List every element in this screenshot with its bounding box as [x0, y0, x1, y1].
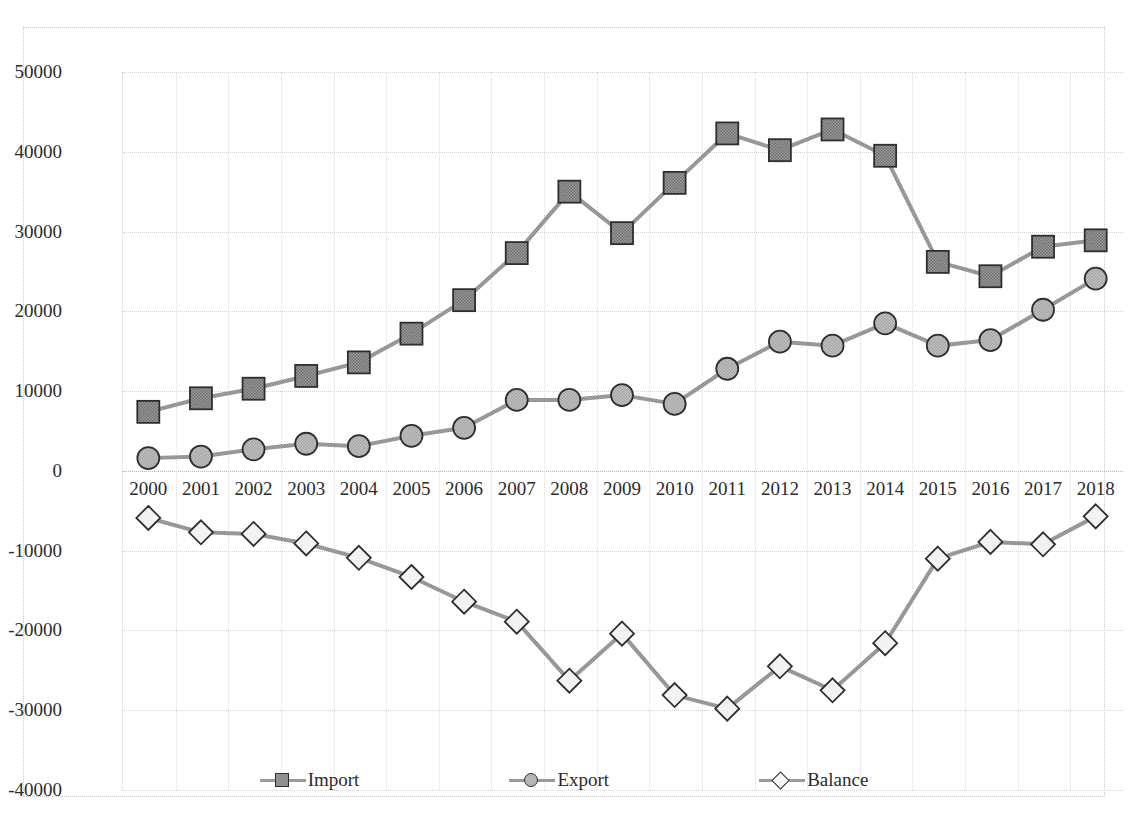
- data-point-diamond: [347, 546, 371, 570]
- data-point-square: [243, 378, 265, 400]
- data-point-circle: [979, 329, 1001, 351]
- x-axis-tick-label: 2003: [277, 479, 335, 498]
- data-point-circle: [295, 433, 317, 455]
- x-axis-tick-label: 2014: [856, 479, 914, 498]
- x-axis-tick-label: 2011: [698, 479, 756, 498]
- data-point-square: [400, 323, 422, 345]
- x-axis-tick-label: 2007: [488, 479, 546, 498]
- data-point-square: [664, 172, 686, 194]
- legend-label: Import: [308, 770, 360, 789]
- data-point-square: [348, 351, 370, 373]
- y-axis-tick-label: -30000: [0, 700, 62, 719]
- series-balance: [136, 504, 1107, 720]
- legend-item-balance[interactable]: Balance: [759, 770, 868, 789]
- data-point-circle: [716, 358, 738, 380]
- data-point-diamond: [926, 547, 950, 571]
- data-point-circle: [243, 438, 265, 460]
- data-point-circle: [874, 312, 896, 334]
- y-axis-tick-label: -10000: [0, 541, 62, 560]
- y-axis-tick-label: 50000: [0, 62, 62, 81]
- square-marker-icon: [260, 771, 306, 789]
- data-point-square: [1085, 229, 1107, 251]
- data-point-circle: [453, 417, 475, 439]
- data-point-diamond: [1084, 504, 1108, 528]
- data-point-circle: [664, 393, 686, 415]
- data-point-square: [190, 387, 212, 409]
- data-point-diamond: [399, 565, 423, 589]
- x-axis-tick-label: 2002: [225, 479, 283, 498]
- legend-label: Export: [557, 770, 609, 789]
- x-axis-tick-label: 2018: [1067, 479, 1125, 498]
- chart-frame: 50000400003000020000100000-10000-20000-3…: [23, 27, 1105, 797]
- x-axis-tick-label: 2005: [382, 479, 440, 498]
- x-axis-tick-label: 2016: [961, 479, 1019, 498]
- data-point-diamond: [294, 531, 318, 555]
- data-point-circle: [1032, 299, 1054, 321]
- circle-marker-icon: [509, 771, 555, 789]
- data-point-square: [716, 122, 738, 144]
- data-point-square: [979, 265, 1001, 287]
- data-point-circle: [348, 435, 370, 457]
- y-axis-tick-label: 20000: [0, 301, 62, 320]
- gridline-horizontal: [123, 790, 1123, 791]
- x-axis-tick-label: 2000: [119, 479, 177, 498]
- x-axis-tick-label: 2008: [540, 479, 598, 498]
- data-point-circle: [190, 446, 212, 468]
- data-point-square: [453, 289, 475, 311]
- series-line: [148, 129, 1095, 411]
- data-point-square: [1032, 236, 1054, 258]
- series-export: [137, 268, 1106, 470]
- data-point-square: [558, 181, 580, 203]
- data-point-diamond: [452, 590, 476, 614]
- data-point-circle: [769, 331, 791, 353]
- data-point-circle: [927, 335, 949, 357]
- x-axis-tick-label: 2004: [330, 479, 388, 498]
- data-point-diamond: [136, 506, 160, 530]
- legend-label: Balance: [807, 770, 868, 789]
- data-point-square: [769, 139, 791, 161]
- data-point-circle: [137, 447, 159, 469]
- x-axis-tick-label: 2015: [909, 479, 967, 498]
- series-line: [148, 279, 1095, 459]
- data-point-circle: [400, 425, 422, 447]
- y-axis-tick-label: 10000: [0, 381, 62, 400]
- data-point-square: [874, 145, 896, 167]
- legend-item-import[interactable]: Import: [260, 770, 360, 789]
- data-point-circle: [506, 389, 528, 411]
- y-axis-tick-label: 30000: [0, 222, 62, 241]
- data-point-circle: [1085, 268, 1107, 290]
- data-point-diamond: [978, 530, 1002, 554]
- y-axis-tick-label: 40000: [0, 142, 62, 161]
- data-point-circle: [558, 389, 580, 411]
- y-axis-tick-label: 0: [0, 461, 62, 480]
- data-point-circle: [611, 384, 633, 406]
- data-point-square: [506, 242, 528, 264]
- x-axis-tick-label: 2010: [646, 479, 704, 498]
- x-axis-tick-label: 2017: [1014, 479, 1072, 498]
- chart-legend: ImportExportBalance: [23, 770, 1105, 789]
- x-axis-tick-label: 2006: [435, 479, 493, 498]
- y-axis-tick-label: -20000: [0, 620, 62, 639]
- data-point-diamond: [1031, 532, 1055, 556]
- diamond-marker-icon: [759, 771, 805, 789]
- data-point-square: [822, 118, 844, 140]
- data-point-diamond: [189, 520, 213, 544]
- data-point-diamond: [242, 522, 266, 546]
- series-import: [137, 118, 1106, 422]
- x-axis-tick-label: 2012: [751, 479, 809, 498]
- data-point-square: [137, 401, 159, 423]
- data-point-square: [927, 251, 949, 273]
- series-plot: [122, 72, 1122, 790]
- x-axis-tick-label: 2001: [172, 479, 230, 498]
- data-point-square: [295, 365, 317, 387]
- x-axis-tick-label: 2013: [804, 479, 862, 498]
- x-axis-tick-label: 2009: [593, 479, 651, 498]
- data-point-square: [611, 222, 633, 244]
- data-point-circle: [822, 335, 844, 357]
- legend-item-export[interactable]: Export: [509, 770, 609, 789]
- series-line: [148, 516, 1095, 708]
